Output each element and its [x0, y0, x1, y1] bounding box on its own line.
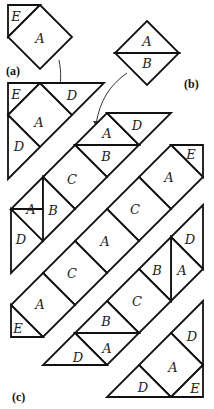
label: D [15, 232, 27, 247]
label: C [67, 172, 77, 187]
label: A [163, 170, 173, 185]
label: D [13, 139, 25, 154]
label: B [100, 149, 111, 164]
label: A [25, 202, 35, 217]
label: B [100, 314, 111, 329]
label: D [131, 118, 143, 133]
label: E [12, 321, 23, 336]
caption-a: (a) [6, 64, 20, 78]
label-e: E [10, 9, 21, 24]
label: A [34, 297, 44, 312]
label: E [10, 87, 21, 102]
label: A [176, 263, 186, 278]
label: A [101, 341, 111, 356]
label-b: B [141, 56, 152, 71]
label: D [66, 88, 78, 103]
label: A [101, 126, 111, 141]
tiling-diagram: E A (a) A B (b) E A D D A D B C A [0, 0, 214, 409]
piece-a: E A (a) [6, 5, 72, 78]
label: A [99, 234, 109, 249]
label: C [130, 202, 140, 217]
label: E [189, 381, 200, 396]
label-a: A [34, 31, 44, 46]
caption-b: (b) [184, 77, 199, 91]
piece-b: A B (b) [115, 21, 199, 91]
label: D [186, 329, 198, 344]
label: B [151, 263, 162, 278]
label: D [184, 232, 196, 247]
label: D [72, 350, 84, 365]
label: C [132, 294, 142, 309]
label: C [67, 266, 77, 281]
label: D [137, 380, 149, 395]
label-a: A [141, 34, 151, 49]
label: A [167, 360, 177, 375]
label: E [185, 147, 196, 162]
label: A [33, 115, 43, 130]
label: B [47, 203, 58, 218]
caption-c: (c) [12, 390, 25, 404]
